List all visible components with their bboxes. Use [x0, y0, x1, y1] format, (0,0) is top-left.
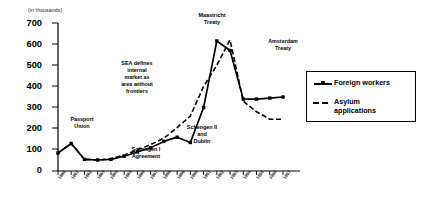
series-markers-foreign-workers [56, 39, 284, 161]
legend-item-foreign-workers: Foreign workers [313, 79, 390, 88]
data-point-marker [109, 158, 112, 161]
solid-line-marker-icon [313, 79, 333, 88]
legend-label-asylum-applications: Asylum applications [334, 98, 376, 115]
data-point-marker [202, 106, 205, 109]
annotation-amsterdam-treaty: Amsterdam Treaty [252, 38, 314, 52]
data-point-marker [215, 39, 218, 42]
series-line-foreign-workers [58, 41, 283, 160]
annotation-maastricht-treaty: Maastricht Treaty [183, 12, 241, 26]
data-point-marker [242, 97, 245, 100]
data-point-marker [96, 158, 99, 161]
data-point-marker [162, 140, 165, 143]
data-point-marker [268, 96, 271, 99]
data-point-marker [255, 97, 258, 100]
annotation-sea: SEA defines internal market as area with… [107, 60, 167, 95]
annotation-schengen-ii-dublin: Schengen II and Dublin [176, 124, 228, 145]
legend-label-foreign-workers: Foreign workers [334, 79, 390, 88]
chart-container: (in thousands) 700 600 500 400 300 200 1… [0, 0, 421, 200]
chart-legend: Foreign workers Asylum applications [306, 71, 416, 122]
data-point-marker [228, 49, 231, 52]
data-point-marker [83, 158, 86, 161]
data-point-marker [281, 95, 284, 98]
annotation-schengen-i-agreement: Schengen I Agreement [118, 146, 174, 160]
data-point-marker [70, 142, 73, 145]
dashed-line-icon [313, 98, 333, 107]
legend-item-asylum-applications: Asylum applications [313, 98, 376, 115]
data-point-marker [56, 151, 59, 154]
annotation-passport-union: Passport Union [60, 116, 104, 130]
y-axis-ticks [52, 23, 58, 171]
